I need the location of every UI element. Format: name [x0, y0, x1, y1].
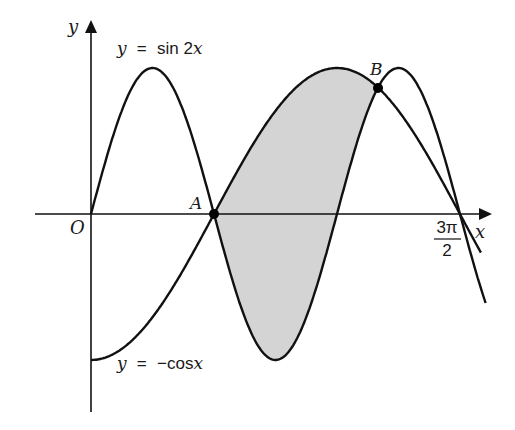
- svg-text:y = sin 2x: y = sin 2x: [116, 38, 203, 58]
- label-sin-func: sin 2: [157, 39, 193, 58]
- tick-numerator: 3π: [436, 218, 457, 237]
- point-b-label: B: [369, 59, 383, 79]
- label-sin-var: x: [193, 38, 203, 58]
- point-a-label: A: [188, 193, 202, 213]
- origin-label: O: [70, 217, 85, 238]
- label-negcosx: y = −cosx: [116, 353, 203, 373]
- svg-text:y = −cosx: y = −cosx: [116, 353, 203, 373]
- graph-svg: y x O 3π 2 A B y = sin 2x y = −cosx: [0, 0, 515, 430]
- label-cos-eq: =: [137, 354, 147, 373]
- x-axis-arrow-icon: [479, 208, 492, 220]
- label-sin2x: y = sin 2x: [116, 38, 203, 58]
- label-cos-var: x: [193, 353, 203, 373]
- point-b-marker: [373, 83, 383, 93]
- x-axis-label: x: [475, 221, 485, 242]
- diagram-stage: y x O 3π 2 A B y = sin 2x y = −cosx: [0, 0, 515, 430]
- y-axis-arrow-icon: [85, 20, 97, 33]
- y-axis-label: y: [67, 16, 79, 37]
- label-sin-lhs: y: [116, 38, 127, 58]
- label-sin-eq: =: [137, 39, 147, 58]
- x-tick-three-pi-over-two: 3π 2: [434, 218, 461, 260]
- tick-denominator: 2: [442, 241, 451, 260]
- label-cos-lhs: y: [116, 353, 127, 373]
- point-a-marker: [209, 209, 219, 219]
- label-cos-func: −cos: [157, 354, 193, 373]
